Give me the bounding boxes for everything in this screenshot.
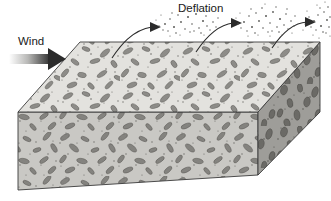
figure-canvas: Wind Deflation (0, 0, 331, 201)
deflation-label: Deflation (178, 2, 223, 14)
wind-label: Wind (18, 35, 44, 47)
